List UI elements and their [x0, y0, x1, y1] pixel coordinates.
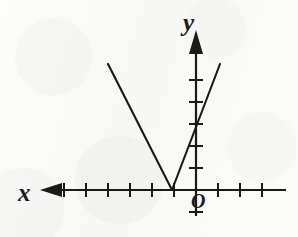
- origin-label: O: [191, 191, 205, 211]
- v-shape-graph-curve: [108, 64, 220, 190]
- y-axis-group: [189, 30, 203, 216]
- x-axis-arrowhead: [40, 183, 62, 197]
- x-axis-label: x: [18, 180, 31, 205]
- graph-figure: y x O: [0, 0, 298, 237]
- coordinate-plane-drawing: [0, 0, 298, 237]
- x-axis-group: [40, 183, 286, 197]
- y-axis-label: y: [183, 10, 194, 35]
- graph-left-branch: [108, 64, 172, 190]
